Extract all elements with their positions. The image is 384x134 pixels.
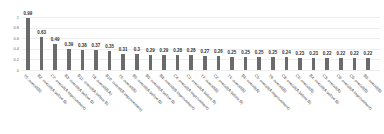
y-tick-label: 0.2 <box>5 57 19 62</box>
bar <box>176 55 180 70</box>
bar <box>271 57 275 70</box>
bar <box>353 58 357 70</box>
bar <box>189 55 193 70</box>
bar <box>26 18 30 70</box>
gridline <box>22 38 380 39</box>
bar <box>217 56 221 70</box>
bar <box>298 58 302 70</box>
bar <box>312 58 316 70</box>
y-tick-label: 0.8 <box>5 25 19 30</box>
bar <box>94 50 98 70</box>
bar <box>325 58 329 70</box>
gridline <box>22 17 380 18</box>
bar-value-label: 0.22 <box>360 51 376 56</box>
y-tick-label: 0.4 <box>5 46 19 51</box>
bar <box>257 57 261 70</box>
bar <box>149 55 153 70</box>
gridline <box>22 28 380 29</box>
bar <box>53 44 57 70</box>
gridline <box>22 70 380 71</box>
y-tick-label: 0 <box>5 68 19 73</box>
bar-value-label: 0.49 <box>47 37 63 42</box>
bar <box>40 37 44 70</box>
bar <box>162 55 166 70</box>
bar <box>108 51 112 70</box>
bar <box>339 58 343 70</box>
bar <box>121 54 125 70</box>
bar <box>230 57 234 70</box>
bar <box>81 50 85 70</box>
bar <box>285 57 289 70</box>
y-tick-label: 0.6 <box>5 36 19 41</box>
bar <box>366 58 370 70</box>
bar <box>67 49 71 70</box>
bar <box>203 56 207 70</box>
y-tick-label: 1 <box>5 15 19 20</box>
bar-chart: 00.20.40.60.810.99T5: overall(B)0.63B2: … <box>0 0 384 134</box>
bar-value-label: 0.99 <box>20 11 36 16</box>
bar <box>244 57 248 70</box>
bar <box>135 54 139 70</box>
bar-value-label: 0.63 <box>34 30 50 35</box>
